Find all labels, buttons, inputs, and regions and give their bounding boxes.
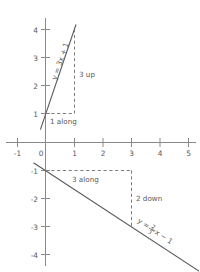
annotation-3-along: 3 along: [72, 175, 99, 184]
line-lower: [34, 163, 200, 272]
y-tick-label-neg3: -3: [31, 223, 39, 232]
line-graph-figure: -1 0 1 2 3 4 5 4 3 2 1 -1 -2 -3 -4 1 alo…: [0, 0, 199, 272]
annotation-3-up: 3 up: [79, 70, 95, 79]
y-tick-label-4: 4: [33, 26, 38, 35]
x-tick-label-0: 0: [39, 149, 44, 158]
annotation-2-down: 2 down: [136, 194, 162, 203]
y-tick-label-neg2: -2: [31, 195, 38, 204]
x-tick-label-3: 3: [129, 149, 134, 158]
x-tick-label-4: 4: [158, 149, 163, 158]
graph-canvas: -1 0 1 2 3 4 5 4 3 2 1 -1 -2 -3 -4 1 alo…: [0, 0, 199, 272]
y-tick-label-2: 2: [33, 82, 38, 91]
y-tick-label-neg1: -1: [31, 167, 39, 176]
y-tick-label-neg4: -4: [31, 251, 39, 260]
y-tick-label-3: 3: [33, 54, 38, 63]
equation-label-upper: y = 3x + 1: [50, 41, 71, 81]
annotation-1-along: 1 along: [50, 117, 77, 126]
equation-label-lower: y = − 2 3 x − 1: [135, 215, 175, 248]
x-tick-label-neg1: -1: [14, 149, 22, 158]
x-tick-label-1: 1: [72, 149, 77, 158]
x-tick-label-5: 5: [186, 149, 191, 158]
x-tick-label-2: 2: [101, 149, 106, 158]
y-tick-label-1: 1: [33, 110, 38, 119]
